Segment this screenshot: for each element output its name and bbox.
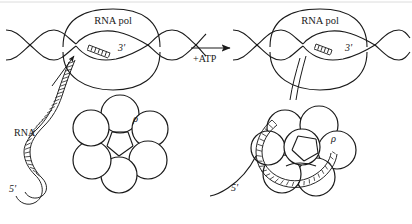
rho-central-channel-left bbox=[107, 132, 133, 156]
panel-after: RNA pol 3' bbox=[210, 9, 410, 196]
rho-termination-diagram: RNA pol 3' bbox=[0, 0, 412, 224]
rho-hexamer-left bbox=[73, 95, 168, 193]
rna-pol-label-right: RNA pol bbox=[301, 15, 339, 26]
three-prime-label-left: 3' bbox=[117, 42, 126, 53]
rho-hexamer-right bbox=[251, 106, 356, 196]
three-prime-label-right: 3' bbox=[344, 42, 353, 53]
dna-duplex bbox=[6, 30, 206, 60]
rna-pol-label: RNA pol bbox=[94, 15, 132, 26]
rho-label-right: ρ bbox=[330, 133, 336, 144]
figure-canvas: RNA pol 3' bbox=[0, 0, 412, 224]
dna-duplex-right bbox=[233, 30, 410, 60]
panel-before: RNA pol 3' bbox=[6, 9, 206, 204]
rna-entering-rho bbox=[290, 56, 306, 100]
rho-subunit bbox=[73, 141, 111, 179]
five-prime-label-left: 5' bbox=[9, 183, 17, 194]
rna-dna-hybrid-left bbox=[87, 45, 110, 58]
reaction-arrow-group: +ATP bbox=[191, 48, 230, 64]
atp-label: +ATP bbox=[193, 53, 217, 64]
rho-subunit bbox=[73, 110, 109, 146]
rna-label-left: RNA bbox=[14, 127, 36, 138]
rho-label-left: ρ bbox=[132, 113, 138, 124]
rna-dna-hybrid-right bbox=[314, 44, 332, 55]
five-prime-label-right: 5' bbox=[231, 182, 239, 193]
